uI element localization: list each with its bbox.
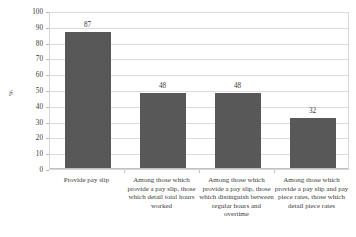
bars-layer: 87484832 xyxy=(50,13,348,169)
x-axis-category-label: Among those which provide a pay slip, th… xyxy=(199,176,274,219)
y-tick-label: 60 xyxy=(36,71,43,79)
bar xyxy=(290,118,336,169)
bar xyxy=(140,93,186,169)
bar-value-label: 87 xyxy=(84,21,91,30)
bar-chart: % 0102030405060708090100 87484832 Provid… xyxy=(0,0,356,237)
bar-value-label: 48 xyxy=(234,82,241,91)
y-tick-label: 40 xyxy=(36,103,43,111)
y-tick-label: 80 xyxy=(36,40,43,48)
y-tick-label: 0 xyxy=(39,166,43,174)
bar-group: 32 xyxy=(275,13,350,169)
y-tick-mark xyxy=(46,170,49,171)
bar-value-label: 32 xyxy=(309,107,316,116)
y-axis-title: % xyxy=(4,86,18,100)
x-axis-baseline xyxy=(50,168,348,169)
bar-group: 48 xyxy=(200,13,275,169)
plot-area: 87484832 xyxy=(49,12,349,170)
y-tick-label: 30 xyxy=(36,119,43,127)
y-axis-ticks: 0102030405060708090100 xyxy=(18,12,46,170)
y-tick-label: 90 xyxy=(36,24,43,32)
x-tick-mark xyxy=(274,170,275,173)
bar xyxy=(215,93,261,169)
bar xyxy=(65,32,111,169)
y-tick-label: 50 xyxy=(36,87,43,95)
x-tick-mark xyxy=(199,170,200,173)
y-tick-label: 100 xyxy=(32,8,43,16)
x-tick-mark xyxy=(124,170,125,173)
y-tick-label: 70 xyxy=(36,55,43,63)
x-axis-category-label: Among those which provide a pay slip and… xyxy=(274,176,349,210)
x-axis-category-label: Among those which provide a pay slip, th… xyxy=(124,176,199,210)
bar-value-label: 48 xyxy=(159,82,166,91)
x-axis-labels: Provide pay slipAmong those which provid… xyxy=(49,176,349,234)
y-tick-label: 20 xyxy=(36,134,43,142)
bar-group: 48 xyxy=(125,13,200,169)
x-axis-category-label: Provide pay slip xyxy=(49,176,124,185)
y-tick-label: 10 xyxy=(36,150,43,158)
bar-group: 87 xyxy=(50,13,125,169)
